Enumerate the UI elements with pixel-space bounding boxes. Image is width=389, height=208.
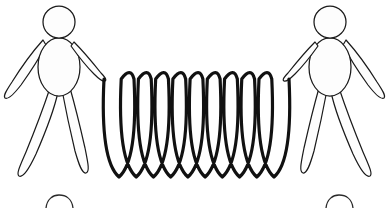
left-figure-head bbox=[43, 6, 75, 38]
illustration-canvas: Two figures stretching a coiled spring bbox=[0, 0, 389, 208]
scene-svg bbox=[0, 0, 389, 208]
right-figure-head bbox=[314, 6, 346, 38]
